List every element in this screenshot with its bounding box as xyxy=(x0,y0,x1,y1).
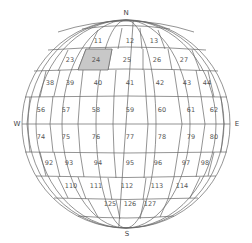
grid-cell[interactable]: 59 xyxy=(126,106,134,114)
grid-cell[interactable]: 125 xyxy=(104,200,116,208)
grid-cell[interactable]: 41 xyxy=(126,79,134,87)
grid-cell[interactable]: 112 xyxy=(121,182,133,190)
grid-cell[interactable]: 44 xyxy=(203,79,211,87)
grid-cell[interactable]: 56 xyxy=(37,106,45,114)
grid-cell[interactable]: 98 xyxy=(201,159,209,167)
grid-cell[interactable]: 60 xyxy=(158,106,166,114)
grid-cell[interactable]: 57 xyxy=(62,106,70,114)
globe-map: N S W E 11 12 13 23 24 25 26 27 38 39 40… xyxy=(0,0,252,243)
grid-cell[interactable]: 110 xyxy=(65,182,77,190)
grid-cell[interactable]: 92 xyxy=(45,159,53,167)
grid-cell[interactable]: 12 xyxy=(126,37,134,45)
grid-cell[interactable]: 25 xyxy=(123,56,131,64)
compass-south: S xyxy=(125,230,130,238)
grid-cell[interactable]: 76 xyxy=(92,133,100,141)
grid-cell[interactable]: 11 xyxy=(94,37,102,45)
compass-east: E xyxy=(235,120,239,128)
grid-cell[interactable]: 58 xyxy=(92,106,100,114)
grid-cell[interactable]: 23 xyxy=(66,56,74,64)
grid-cell[interactable]: 27 xyxy=(180,56,188,64)
grid-cell[interactable]: 43 xyxy=(183,79,191,87)
grid-cell[interactable]: 93 xyxy=(65,159,73,167)
grid-cell[interactable]: 13 xyxy=(150,37,158,45)
grid-cell[interactable]: 79 xyxy=(187,133,195,141)
grid-cell[interactable]: 40 xyxy=(94,79,102,87)
grid-cell[interactable]: 95 xyxy=(126,159,134,167)
grid-cell[interactable]: 26 xyxy=(153,56,161,64)
grid-cell[interactable]: 39 xyxy=(66,79,74,87)
grid-cell[interactable]: 126 xyxy=(124,200,136,208)
grid-cell[interactable]: 42 xyxy=(156,79,164,87)
grid-cell[interactable]: 113 xyxy=(151,182,163,190)
grid-cell[interactable]: 77 xyxy=(126,133,134,141)
grid-cell[interactable]: 127 xyxy=(144,200,156,208)
grid-cell-selected[interactable]: 24 xyxy=(92,56,100,64)
grid-cell[interactable]: 61 xyxy=(187,106,195,114)
compass-west: W xyxy=(14,120,21,128)
grid-cell[interactable]: 62 xyxy=(210,106,218,114)
compass-north: N xyxy=(123,9,128,17)
grid-cell[interactable]: 96 xyxy=(154,159,162,167)
grid-cell[interactable]: 111 xyxy=(90,182,102,190)
grid-cell[interactable]: 38 xyxy=(46,79,54,87)
grid-cell[interactable]: 78 xyxy=(158,133,166,141)
grid-cell[interactable]: 114 xyxy=(176,182,188,190)
grid-cell[interactable]: 80 xyxy=(210,133,218,141)
grid-cell[interactable]: 74 xyxy=(37,133,45,141)
grid-cell[interactable]: 94 xyxy=(94,159,102,167)
grid-cell[interactable]: 75 xyxy=(62,133,70,141)
grid-cell[interactable]: 97 xyxy=(182,159,190,167)
